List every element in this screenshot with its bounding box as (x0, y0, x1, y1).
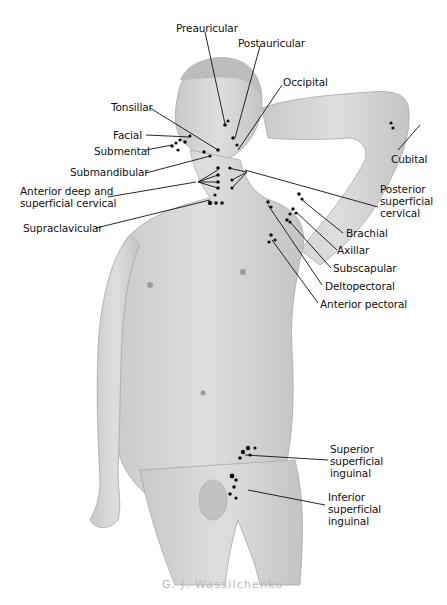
label-superior-superficial-inguinal: Superior superficial inguinal (330, 443, 410, 479)
label-anterior-deep-superficial-cervical: Anterior deep and superficial cervical (20, 185, 160, 209)
nipple-right (240, 269, 246, 275)
label-anterior-pectoral: Anterior pectoral (320, 298, 407, 310)
navel (201, 391, 206, 396)
label-brachial: Brachial (346, 227, 388, 239)
label-deltopectoral: Deltopectoral (325, 280, 395, 292)
label-preauricular: Preauricular (176, 22, 238, 34)
label-submental: Submental (94, 145, 150, 157)
label-postauricular: Postauricular (238, 37, 305, 49)
label-facial: Facial (113, 129, 142, 141)
artist-signature: G. J. Wassilchenko (162, 578, 283, 591)
label-tonsillar: Tonsillar (111, 101, 153, 113)
anatomy-diagram: Preauricular Postauricular Occipital Ton… (0, 0, 447, 605)
label-inferior-superficial-inguinal: Inferior superficial inguinal (328, 491, 408, 527)
legs (140, 460, 302, 585)
genitals (199, 480, 227, 520)
label-supraclavicular: Supraclavicular (23, 222, 103, 234)
label-subscapular: Subscapular (333, 262, 397, 274)
label-cubital: Cubital (391, 153, 427, 165)
label-axillar: Axillar (337, 244, 369, 256)
label-submandibular: Submandibular (70, 166, 149, 178)
label-posterior-superficial-cervical: Posterior superficial cervical (380, 183, 447, 219)
nipple-left (147, 282, 153, 288)
label-occipital: Occipital (283, 76, 328, 88)
